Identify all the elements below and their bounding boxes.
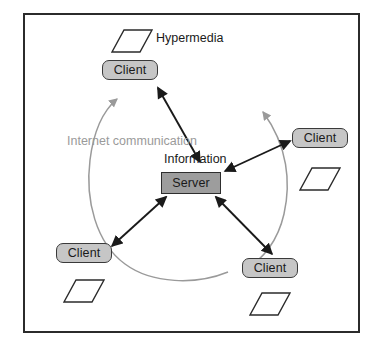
document-icon-right bbox=[300, 168, 340, 190]
client-right-label: Client bbox=[304, 131, 337, 145]
hypermedia-label: Hypermedia bbox=[156, 31, 223, 45]
server-node[interactable]: Server bbox=[161, 172, 221, 194]
client-top-label: Client bbox=[114, 63, 147, 77]
internet-communication-label: Internet communication bbox=[67, 134, 197, 148]
document-icon-bottom-right bbox=[250, 293, 290, 315]
client-bottom-right-label: Client bbox=[254, 261, 287, 275]
server-label: Server bbox=[172, 176, 209, 190]
document-icon-bottom-left bbox=[64, 280, 104, 302]
client-node-top[interactable]: Client bbox=[102, 60, 158, 80]
client-node-bottom-right[interactable]: Client bbox=[242, 258, 298, 278]
client-bottom-left-label: Client bbox=[68, 246, 101, 260]
information-label: Information bbox=[164, 152, 227, 166]
diagram-canvas: Hypermedia Internet communication Inform… bbox=[0, 0, 379, 347]
document-icon-hypermedia bbox=[112, 30, 152, 52]
client-node-right[interactable]: Client bbox=[292, 128, 348, 148]
client-node-bottom-left[interactable]: Client bbox=[56, 243, 112, 263]
